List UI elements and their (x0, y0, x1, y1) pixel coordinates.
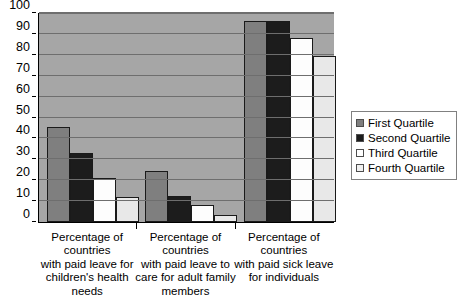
gridline (39, 75, 334, 76)
legend-label: Fourth Quartile (368, 162, 445, 174)
bar (313, 56, 336, 222)
bar (191, 205, 214, 222)
y-axis-tick-mark (32, 75, 36, 76)
legend-item-second-quartile: Second Quartile (356, 130, 452, 145)
gridline (39, 12, 334, 13)
y-axis-tick-label: 70 (0, 62, 30, 74)
y-axis-tick-mark (32, 221, 36, 222)
x-axis-tick-mark (235, 223, 236, 229)
bar (47, 127, 70, 222)
bar (290, 38, 313, 222)
y-axis-tick-mark (32, 137, 36, 138)
gridline (39, 117, 334, 118)
y-axis-tick-mark (32, 200, 36, 201)
x-axis-tick-mark (136, 223, 137, 229)
legend-label: Second Quartile (368, 132, 450, 144)
y-axis-tick-label: 40 (0, 124, 30, 136)
y-axis-tick-mark (32, 96, 36, 97)
y-axis: 0102030405060708090100 (0, 0, 30, 230)
legend-swatch-icon (356, 134, 364, 142)
bar-chart: 0102030405060708090100 Percentage ofcoun… (0, 0, 461, 305)
gridline (39, 54, 334, 55)
gridline (39, 158, 334, 159)
y-axis-tick-mark (32, 158, 36, 159)
legend: First Quartile Second Quartile Third Qua… (351, 111, 457, 180)
y-axis-tick-label: 20 (0, 166, 30, 178)
y-axis-tick-label: 30 (0, 145, 30, 157)
bar (244, 21, 267, 222)
y-axis-tick-label: 50 (0, 104, 30, 116)
y-axis-tick-label: 0 (0, 208, 30, 220)
x-axis-category-label: Percentage ofcountrieswith paid leave to… (130, 231, 240, 298)
gridline (39, 137, 334, 138)
bar (267, 21, 290, 222)
legend-label: Third Quartile (368, 147, 438, 159)
gridline (39, 96, 334, 97)
legend-swatch-icon (356, 119, 364, 127)
plot-area (38, 13, 334, 223)
legend-label: First Quartile (368, 117, 434, 129)
y-axis-tick-mark (32, 12, 36, 13)
y-axis-tick-mark (32, 54, 36, 55)
y-axis-tick-mark (32, 33, 36, 34)
bar (70, 153, 93, 222)
y-axis-tick-label: 60 (0, 83, 30, 95)
x-axis-category-label: Percentage ofcountrieswith paid sick lea… (229, 231, 339, 285)
legend-item-fourth-quartile: Fourth Quartile (356, 160, 452, 175)
x-axis-category-label: Percentage ofcountrieswith paid leave fo… (32, 231, 142, 298)
y-axis-tick-mark (32, 117, 36, 118)
bar (214, 215, 237, 222)
y-axis-tick-label: 10 (0, 187, 30, 199)
legend-item-first-quartile: First Quartile (356, 115, 452, 130)
bars-layer (39, 13, 334, 222)
y-axis-tick-mark (32, 179, 36, 180)
y-axis-tick-label: 100 (0, 0, 30, 11)
x-axis-category-labels: Percentage ofcountrieswith paid leave fo… (38, 231, 333, 303)
y-axis-tick-label: 80 (0, 41, 30, 53)
legend-swatch-icon (356, 149, 364, 157)
y-axis-tick-label: 90 (0, 20, 30, 32)
gridline (39, 33, 334, 34)
legend-swatch-icon (356, 164, 364, 172)
legend-item-third-quartile: Third Quartile (356, 145, 452, 160)
gridline (39, 179, 334, 180)
gridline (39, 200, 334, 201)
